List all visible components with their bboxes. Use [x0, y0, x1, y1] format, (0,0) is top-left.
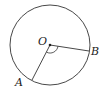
label-o: O	[38, 35, 47, 48]
angle-arc	[47, 46, 59, 53]
label-b: B	[90, 45, 99, 58]
center-point	[49, 44, 52, 47]
label-a: A	[14, 76, 23, 89]
radius-oa	[32, 45, 50, 80]
circle-diagram: O B A	[0, 0, 102, 92]
